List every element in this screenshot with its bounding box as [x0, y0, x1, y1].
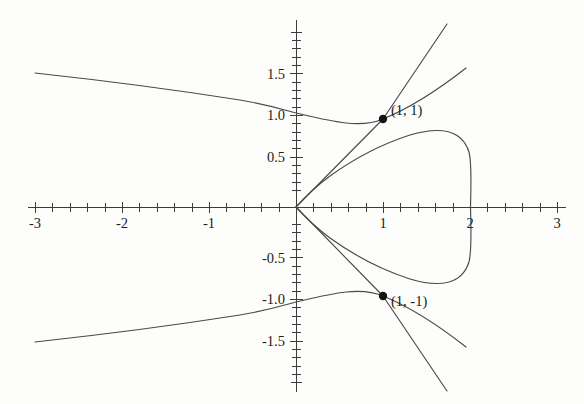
x-tick-label-neg3: -3	[29, 215, 41, 231]
data-point-marker-upper	[379, 115, 387, 123]
y-tick-label-pos15: 1.5	[267, 66, 285, 82]
x-tick-label-pos2: 2	[466, 215, 473, 231]
coordinate-plot: -3 -2 -1 1 2 3 1.5 1.0 0.5 -0.5 -1.0 -1.…	[0, 0, 584, 404]
x-tick-label-neg1: -1	[203, 215, 215, 231]
y-tick-label-neg05: -0.5	[262, 250, 285, 266]
annotation-label-upper-point: (1, 1)	[391, 102, 423, 119]
y-tick-label-pos05: 0.5	[267, 149, 285, 165]
data-point-marker-lower	[379, 292, 387, 300]
plot-figure: -3 -2 -1 1 2 3 1.5 1.0 0.5 -0.5 -1.0 -1.…	[0, 0, 584, 404]
loop-curve-upper	[296, 131, 471, 207]
x-tick-label-neg2: -2	[116, 215, 128, 231]
y-tick-label-neg10: -1.0	[262, 291, 285, 307]
x-tick-label-pos3: 3	[553, 215, 560, 231]
y-tick-label-pos10: 1.0	[267, 107, 285, 123]
annotation-label-lower-point: (1, -1)	[391, 293, 427, 310]
y-tick-label-neg15: -1.5	[262, 333, 285, 349]
x-tick-label-pos1: 1	[379, 215, 386, 231]
line-through-upper-point	[296, 24, 447, 207]
